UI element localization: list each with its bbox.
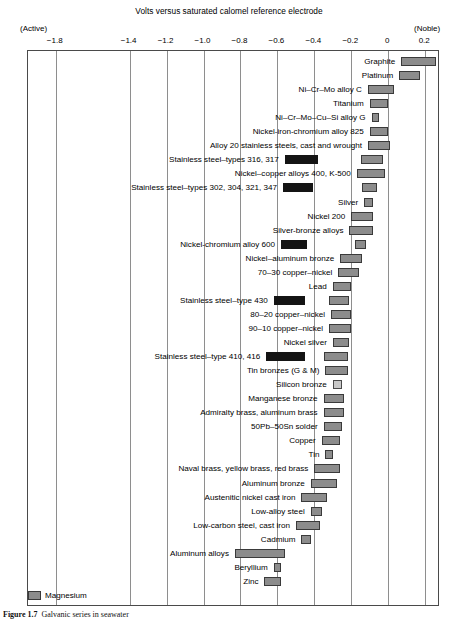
bar-row[interactable]: Admiralty brass, aluminum brass [28,406,438,420]
bar-label: Silicon bronze [276,378,327,391]
bar-row[interactable]: Nickel 200 [28,210,438,224]
bar-row[interactable]: Nickel silver [28,336,438,350]
bar-row[interactable]: Stainless steel–type 410, 416 [28,350,438,364]
plot-area: GraphitePlatinumNi–Cr–Mo alloy CTitanium… [27,50,439,606]
bar-segment [266,352,305,361]
active-end-label: (Active) [20,24,47,33]
bar-row[interactable]: Aluminum bronze [28,477,438,491]
x-tick-6: −0.4 [305,36,321,45]
figure-number: Figure 1.7 [3,610,38,619]
bar-segment [333,338,350,347]
bar-segment [372,113,379,122]
bar-label: Nickel–aluminum bronze [246,252,335,265]
bar-row[interactable]: Nickel–aluminum bronze [28,252,438,266]
bar-segment [370,99,388,108]
bar-row[interactable]: Low-carbon steel, cast iron [28,519,438,533]
bar-segment [340,254,362,263]
bar-segment-passive [324,352,348,361]
bar-label: Stainless steel–types 302, 304, 321, 347 [131,181,277,194]
bar-row[interactable]: Nickel-chromium alloy 600 [28,238,438,252]
bar-segment [281,240,307,249]
bar-segment [311,479,337,488]
bar-segment-passive [355,240,366,249]
bar-label: Ni–Cr–Mo alloy C [299,83,362,96]
x-tick-2: −1.2 [158,36,174,45]
bar-label: Magnesium [45,589,87,602]
bar-row[interactable]: Naval brass, yellow brass, red brass [28,462,438,476]
bar-row[interactable]: Aluminum alloys [28,547,438,561]
chart-title: Volts versus saturated calomel reference… [0,6,458,16]
bar-row[interactable]: 80–20 copper–nickel [28,308,438,322]
bar-row[interactable]: Silver [28,196,438,210]
bar-label: Aluminum bronze [242,477,305,490]
bar-label: Titanium [333,97,364,110]
bar-row[interactable]: 50Pb–50Sn solder [28,420,438,434]
caption-text: Galvanic series in seawater [42,610,129,619]
bar-row[interactable]: Cadmium [28,533,438,547]
bar-label: Naval brass, yellow brass, red brass [178,462,308,475]
bar-row[interactable]: Lead [28,280,438,294]
bar-row[interactable]: Stainless steel–type 430 [28,294,438,308]
bar-row[interactable]: Beryllium [28,561,438,575]
bar-label: Tin bronzes (G & M) [247,364,320,377]
bar-segment [364,198,373,207]
bar-row[interactable]: Graphite [28,55,438,69]
bar-segment [274,296,305,305]
bar-label: Graphite [364,55,395,68]
noble-end-label: (Noble) [414,24,440,33]
bar-row[interactable]: Ni–Cr–Mo alloy C [28,83,438,97]
bar-segment [368,85,394,94]
bar-segment [324,408,344,417]
bar-row[interactable]: Manganese bronze [28,392,438,406]
bar-row[interactable]: 70–30 copper–nickel [28,266,438,280]
bar-row[interactable]: Silicon bronze [28,378,438,392]
bar-segment [368,141,390,150]
bar-segment [325,366,347,375]
bar-row[interactable]: Alloy 20 stainless steels, cast and wrou… [28,139,438,153]
bar-row[interactable]: Low-alloy steel [28,505,438,519]
bar-segment [314,464,340,473]
bar-label: Nickel-chromium alloy 600 [180,238,275,251]
figure-caption: Figure 1.7 Galvanic series in seawater [3,610,455,620]
bar-row[interactable]: 90–10 copper–nickel [28,322,438,336]
bar-row[interactable]: Nickel–copper alloys 400, K-500 [28,167,438,181]
bar-label: Nickel-iron-chromium alloy 825 [253,125,364,138]
bar-segment [333,282,351,291]
bar-label: Admiralty brass, aluminum brass [200,406,317,419]
bar-label: Silver-bronze alloys [273,224,344,237]
bar-row[interactable]: Nickel-iron-chromium alloy 825 [28,125,438,139]
x-tick-0: −1.8 [47,36,63,45]
bar-label: Silver [338,196,358,209]
bar-segment [349,226,373,235]
bar-row[interactable]: Tin bronzes (G & M) [28,364,438,378]
bar-segment-passive [362,183,377,192]
bar-row[interactable]: Stainless steel–types 316, 317 [28,153,438,167]
bar-row[interactable]: Zinc [28,575,438,589]
bar-segment [264,577,281,586]
bar-label: Austenitic nickel cast iron [205,491,296,504]
bar-row[interactable]: Tin [28,448,438,462]
x-tick-9: 0.2 [419,36,430,45]
x-tick-8: 0 [385,36,389,45]
bar-label: Nickel silver [284,336,327,349]
bar-row[interactable]: Silver-bronze alloys [28,224,438,238]
bar-segment-passive [329,296,349,305]
bar-label: 50Pb–50Sn solder [251,420,318,433]
bar-label: Aluminum alloys [170,547,229,560]
bar-segment [296,521,320,530]
bar-label: Low-carbon steel, cast iron [193,519,290,532]
bar-segment [325,450,332,459]
bar-label: Lead [309,280,327,293]
bar-label: 90–10 copper–nickel [248,322,323,335]
bar-row[interactable]: Platinum [28,69,438,83]
bar-row[interactable]: Titanium [28,97,438,111]
bar-segment [301,535,310,544]
bar-row[interactable]: Copper [28,434,438,448]
bar-row[interactable]: Ni–Cr–Mo–Cu–Si alloy G [28,111,438,125]
bar-label: 80–20 copper–nickel [250,308,325,321]
bar-row[interactable]: Stainless steel–types 302, 304, 321, 347 [28,181,438,195]
bar-row[interactable]: Austenitic nickel cast iron [28,491,438,505]
bar-segment [283,183,313,192]
bar-segment [399,71,419,80]
bar-row[interactable]: Magnesium [28,589,438,603]
